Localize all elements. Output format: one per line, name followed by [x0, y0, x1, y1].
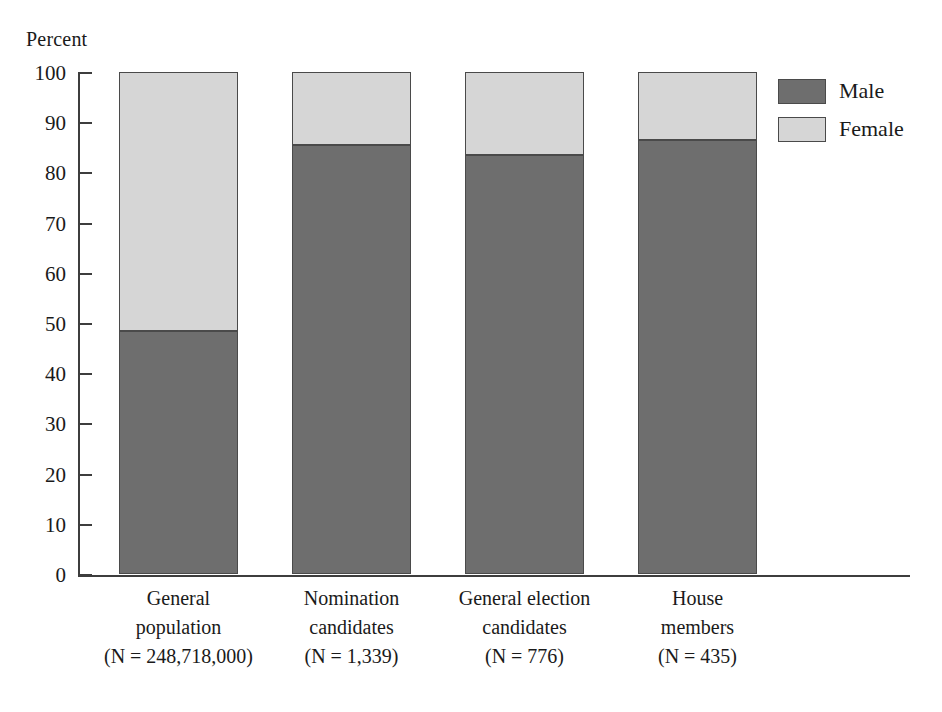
y-axis-tick [80, 474, 92, 476]
legend-swatch-female [778, 117, 826, 142]
bar-segment-female[interactable] [292, 72, 411, 145]
y-axis-tick-label: 40 [45, 364, 66, 385]
y-axis-tick-label: 80 [45, 163, 66, 184]
x-axis-category-label-line: (N = 248,718,000) [79, 642, 279, 671]
legend-label: Female [839, 116, 904, 142]
y-axis-tick [80, 423, 92, 425]
bar[interactable] [465, 72, 584, 574]
y-axis-tick [80, 373, 92, 375]
x-axis-category-label: Nominationcandidates(N = 1,339) [252, 584, 452, 671]
x-axis-category-label: General electioncandidates(N = 776) [425, 584, 625, 671]
legend-item-female[interactable]: Female [778, 110, 938, 148]
y-axis-tick-label: 90 [45, 113, 66, 134]
y-axis-tick [80, 72, 92, 74]
y-axis-title: Percent [26, 28, 87, 51]
x-axis-category-label-line: candidates [252, 613, 452, 642]
bar-segment-female[interactable] [638, 72, 757, 140]
bar[interactable] [638, 72, 757, 574]
bar-segment-male[interactable] [465, 155, 584, 574]
x-axis-category-label-line: Nomination [252, 584, 452, 613]
bar[interactable] [292, 72, 411, 574]
y-axis-tick [80, 524, 92, 526]
y-axis-tick [80, 223, 92, 225]
x-axis-category-label: Housemembers(N = 435) [598, 584, 798, 671]
x-axis-category-label-line: (N = 1,339) [252, 642, 452, 671]
y-axis-tick-label: 10 [45, 514, 66, 535]
y-axis-tick-label: 30 [45, 414, 66, 435]
x-axis-category-label-line: (N = 776) [425, 642, 625, 671]
x-axis-category-label-line: General [79, 584, 279, 613]
y-axis-tick [80, 122, 92, 124]
legend-item-male[interactable]: Male [778, 72, 938, 110]
stacked-bar-chart: Percent 0102030405060708090100 Generalpo… [0, 0, 942, 712]
x-axis-category-label-line: members [598, 613, 798, 642]
legend-label: Male [839, 78, 884, 104]
y-axis-tick [80, 574, 92, 576]
x-axis-category-label-line: General election [425, 584, 625, 613]
x-axis-line [78, 575, 910, 577]
y-axis-tick-label: 50 [45, 314, 66, 335]
y-axis-tick-label: 70 [45, 213, 66, 234]
x-axis-category-label-line: (N = 435) [598, 642, 798, 671]
y-axis-tick [80, 172, 92, 174]
y-axis-tick-label: 60 [45, 263, 66, 284]
y-axis-tick-label: 20 [45, 464, 66, 485]
legend-swatch-male [778, 79, 826, 104]
y-axis-tick-label: 0 [56, 565, 67, 586]
x-axis-category-label: Generalpopulation(N = 248,718,000) [79, 584, 279, 671]
bar-segment-male[interactable] [292, 145, 411, 574]
y-axis-tick [80, 323, 92, 325]
chart-legend: MaleFemale [778, 72, 938, 148]
x-axis-category-label-line: population [79, 613, 279, 642]
y-axis-tick [80, 273, 92, 275]
x-axis-category-label-line: House [598, 584, 798, 613]
bar-segment-male[interactable] [119, 331, 238, 574]
y-axis-tick-label: 100 [35, 63, 67, 84]
bar-segment-female[interactable] [465, 72, 584, 155]
bar[interactable] [119, 72, 238, 574]
bar-segment-male[interactable] [638, 140, 757, 574]
x-axis-category-label-line: candidates [425, 613, 625, 642]
bar-segment-female[interactable] [119, 72, 238, 331]
